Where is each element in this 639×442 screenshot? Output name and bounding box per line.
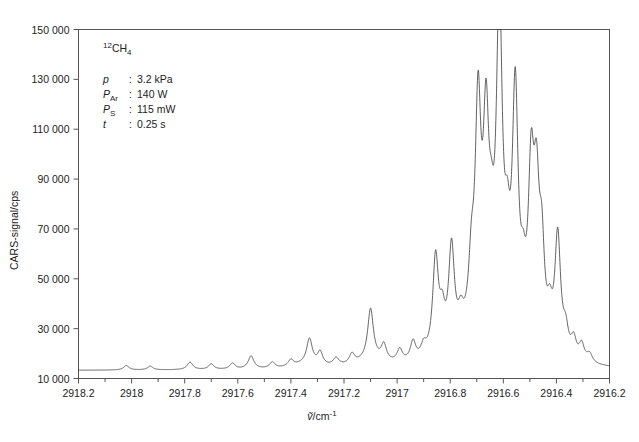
parameter-separator: : — [129, 103, 132, 115]
parameter-value: 115 mW — [137, 103, 175, 115]
parameter-separator: : — [129, 118, 132, 130]
parameter-value: 3.2 kPa — [137, 73, 173, 85]
x-tick-label: 2916.6 — [487, 387, 519, 399]
y-tick-label: 110 000 — [32, 123, 69, 135]
chart-background — [0, 0, 639, 442]
x-tick-label: 2917.2 — [328, 387, 360, 399]
parameter-value: 140 W — [137, 88, 167, 100]
x-tick-label: 2916.2 — [593, 387, 625, 399]
x-tick-label: 2917.8 — [169, 387, 201, 399]
y-axis-title: CARS-signal/cps — [8, 191, 20, 270]
y-tick-label: 90 000 — [37, 173, 69, 185]
x-tick-label: 2917 — [385, 387, 409, 399]
cars-spectrum-chart: 150 000130 000110 00090 00070 00050 0003… — [0, 0, 639, 442]
x-tick-label: 2917.4 — [275, 387, 307, 399]
x-tick-label: 2917.6 — [222, 387, 254, 399]
y-tick-label: 150 000 — [32, 24, 70, 36]
y-tick-label: 30 000 — [37, 323, 69, 335]
y-tick-label: 130 000 — [32, 73, 70, 85]
y-tick-label: 70 000 — [37, 223, 69, 235]
parameter-separator: : — [129, 73, 132, 85]
x-tick-label: 2916.4 — [540, 387, 572, 399]
x-tick-label: 2918 — [120, 387, 144, 399]
parameter-separator: : — [129, 88, 132, 100]
x-tick-label: 2918.2 — [62, 387, 94, 399]
parameter-symbol: p — [102, 73, 109, 85]
y-tick-label: 10 000 — [37, 373, 69, 385]
parameter-value: 0.25 s — [137, 118, 166, 130]
y-tick-label: 50 000 — [37, 273, 69, 285]
x-tick-label: 2916.8 — [434, 387, 466, 399]
plot-svg: 150 000130 000110 00090 00070 00050 0003… — [0, 0, 639, 442]
